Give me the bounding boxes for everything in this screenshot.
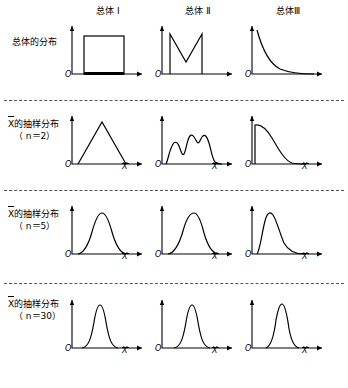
row-label-n5: X的抽样分布 （ n＝5） (8, 208, 59, 232)
x-axis-label-bar (302, 347, 309, 348)
panel-pop-I: O (64, 22, 150, 84)
panel-n2-I: O X (64, 112, 150, 174)
row-label-n30: X的抽样分布 （ n＝30） (8, 298, 61, 322)
x-bar-symbol: X (8, 298, 14, 310)
x-bar-symbol: X (8, 118, 14, 130)
origin-label: O (155, 70, 161, 79)
panel-pop-II: O (154, 22, 240, 84)
row-label-n5-sub: （ n＝5） (8, 220, 59, 232)
row-label-population-text: 总体的分布 (12, 37, 57, 47)
x-axis-label-bar (212, 163, 219, 164)
origin-label: O (155, 250, 161, 259)
x-axis-label-bar (212, 253, 219, 254)
panel-n2-III: O X (244, 112, 330, 174)
row-label-n5-text: 的抽样分布 (14, 209, 59, 219)
origin-label: O (65, 160, 71, 169)
column-header-2: 总体 Ⅱ (158, 4, 238, 17)
panel-n30-II: O X (154, 296, 240, 358)
row-label-n2-text: 的抽样分布 (14, 119, 59, 129)
panel-n5-II: O X (154, 202, 240, 264)
origin-label: O (155, 160, 161, 169)
column-header-3: 总体Ⅲ (248, 4, 328, 17)
origin-label: O (65, 250, 71, 259)
row-label-n2-sub: （ n＝2） (8, 130, 59, 142)
row-label-n30-sub: （ n＝30） (8, 310, 61, 322)
row-separator-3 (4, 283, 344, 284)
row-label-n30-text: 的抽样分布 (14, 299, 59, 309)
origin-label: O (245, 344, 251, 353)
panel-pop-III: O (244, 22, 330, 84)
origin-label: O (245, 70, 251, 79)
x-axis-label-bar (122, 347, 129, 348)
origin-label: O (245, 160, 251, 169)
origin-label: O (245, 250, 251, 259)
panel-n2-II: O X (154, 112, 240, 174)
panel-n5-I: O X (64, 202, 150, 264)
row-separator-1 (4, 100, 344, 101)
column-header-1: 总体 Ⅰ (68, 4, 148, 17)
row-label-n2: X的抽样分布 （ n＝2） (8, 118, 59, 142)
x-axis-label-bar (302, 253, 309, 254)
origin-label: O (65, 344, 71, 353)
x-axis-label-bar (302, 163, 309, 164)
x-bar-symbol: X (8, 208, 14, 220)
panel-n30-III: O X (244, 296, 330, 358)
origin-label: O (155, 344, 161, 353)
x-axis-label-bar (212, 347, 219, 348)
origin-label: O (65, 70, 71, 79)
x-axis-label-bar (122, 163, 129, 164)
row-label-population: 总体的分布 (12, 36, 57, 48)
row-separator-2 (4, 190, 344, 191)
panel-n5-III: O X (244, 202, 330, 264)
figure-canvas: 总体 Ⅰ 总体 Ⅱ 总体Ⅲ 总体的分布 X的抽样分布 （ n＝2） X的抽样分布… (0, 0, 348, 388)
x-axis-label-bar (122, 253, 129, 254)
panel-n30-I: O X (64, 296, 150, 358)
